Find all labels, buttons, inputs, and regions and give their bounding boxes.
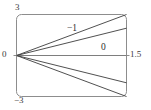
y-axis-min-label: −3 — [14, 96, 24, 105]
y-axis-max-label: 3 — [15, 3, 20, 12]
x-axis-min-label: 0 — [2, 50, 7, 59]
figure-container: 3 −3 0 1.5 −1 0 — [0, 0, 151, 110]
curve-label-middle: 0 — [101, 43, 106, 53]
curve-label-upper: −1 — [67, 24, 77, 34]
ray-4 — [17, 56, 127, 83]
ray-1 — [17, 15, 127, 56]
ray-5 — [17, 56, 127, 97]
plot-canvas — [0, 0, 151, 110]
x-axis-max-label: 1.5 — [130, 50, 141, 59]
